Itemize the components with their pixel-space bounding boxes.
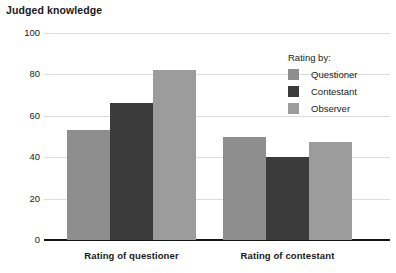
y-axis-tick-label: 80 bbox=[4, 69, 40, 79]
bar bbox=[223, 137, 266, 241]
plot-area: 100806040200 Rating of questionerRating … bbox=[0, 0, 396, 273]
legend-item-label: Observer bbox=[311, 103, 350, 114]
y-axis-tick-label: 60 bbox=[4, 111, 40, 121]
legend-item: Questioner bbox=[288, 67, 357, 82]
legend-color-swatch bbox=[288, 86, 299, 97]
bar bbox=[67, 130, 110, 240]
legend-items: QuestionerContestantObserver bbox=[288, 67, 357, 116]
legend-item: Observer bbox=[288, 101, 357, 116]
legend-title: Rating by: bbox=[288, 52, 357, 63]
bar bbox=[110, 103, 153, 240]
y-axis-tick-label: 0 bbox=[4, 235, 40, 245]
bar bbox=[309, 142, 352, 240]
x-axis-group-label: Rating of contestant bbox=[208, 250, 368, 261]
bar bbox=[266, 157, 309, 240]
bar bbox=[153, 70, 196, 240]
y-axis-tick-label: 100 bbox=[4, 28, 40, 38]
legend-color-swatch bbox=[288, 103, 299, 114]
x-axis-group-label: Rating of questioner bbox=[52, 250, 212, 261]
y-axis-tick-label: 40 bbox=[4, 152, 40, 162]
legend-item-label: Contestant bbox=[311, 86, 357, 97]
legend: Rating by: QuestionerContestantObserver bbox=[288, 52, 357, 118]
legend-item: Contestant bbox=[288, 84, 357, 99]
legend-item-label: Questioner bbox=[311, 69, 357, 80]
gridline bbox=[44, 33, 390, 34]
legend-color-swatch bbox=[288, 69, 299, 80]
y-axis-tick-label: 20 bbox=[4, 194, 40, 204]
bar-chart: Judged knowledge 100806040200 Rating of … bbox=[0, 0, 396, 273]
